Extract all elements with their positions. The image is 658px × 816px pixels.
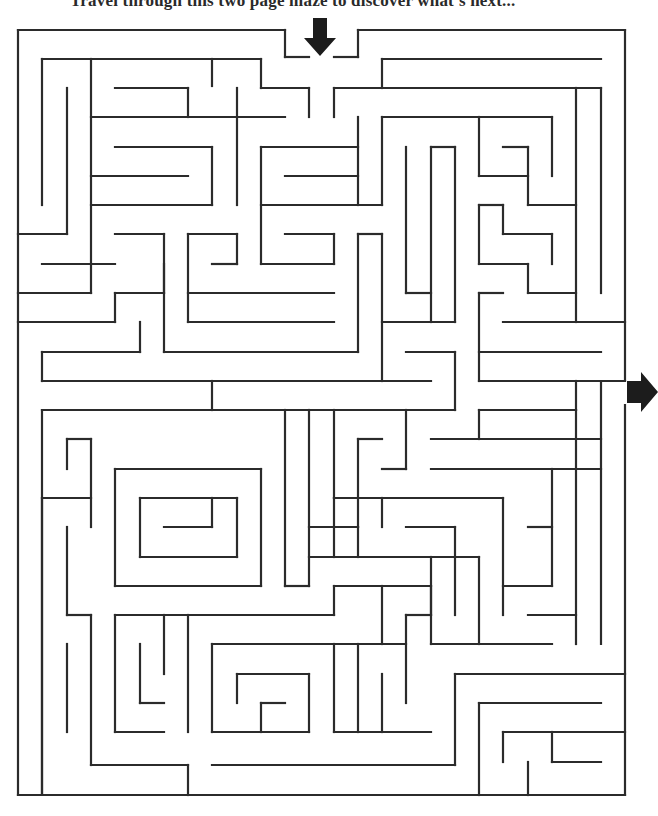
maze-walls [18, 30, 625, 795]
maze [0, 0, 658, 816]
exit-arrow-icon [627, 372, 658, 412]
entrance-arrow-icon [304, 18, 336, 56]
